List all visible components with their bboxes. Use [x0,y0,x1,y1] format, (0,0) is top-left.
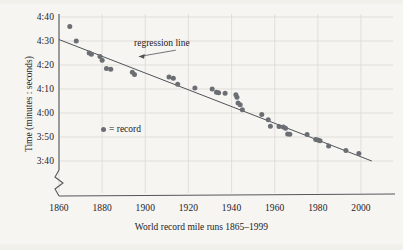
regression-line [59,40,372,161]
data-point [238,102,243,107]
x-tick-label: 1900 [136,203,155,213]
data-point [210,87,215,92]
data-point [108,67,113,72]
data-point [132,72,137,77]
data-point [287,132,292,137]
annotation-leader-line [139,50,176,59]
data-point [259,112,264,117]
data-point [216,90,221,95]
data-point [277,124,282,129]
legend-label: = record [109,124,141,134]
data-point [167,75,172,80]
data-point [89,52,94,57]
data-point [67,24,72,29]
x-tick-label: 1860 [49,203,68,213]
data-points-group [67,24,361,156]
record-dot-icon [101,127,106,132]
data-point [240,107,245,112]
data-point [305,132,310,137]
x-tick-label: 1980 [308,203,327,213]
x-tick-label: 1920 [179,203,198,213]
data-point [104,66,109,71]
regression-line-annotation-label: regression line [134,38,190,48]
data-point [326,143,331,148]
data-point [318,138,323,143]
data-point [192,86,197,91]
leader-arrowhead [139,54,145,59]
data-point [175,82,180,87]
data-point [234,95,239,100]
x-axis-title: World record mile runs 1865–1999 [0,222,403,232]
data-point [283,126,288,131]
regression-line-path [59,40,372,161]
x-tick-label: 1940 [222,203,241,213]
x-tick-label: 1880 [92,203,111,213]
chart-figure: 4:404:304:204:104:003:503:40 18601880190… [0,0,403,250]
data-point [356,151,361,156]
x-tick-label: 1960 [265,203,284,213]
data-point [100,58,105,63]
data-point [171,76,176,81]
data-point [343,148,348,153]
data-point [223,91,228,96]
gridlines-group [59,14,393,193]
x-tick-label: 2000 [351,203,370,213]
legend: = record [101,124,141,134]
data-point [74,39,79,44]
x-axis-line [59,194,395,196]
data-point [268,124,273,129]
data-point [266,117,271,122]
y-axis-title: Time (minutes : seconds) [24,19,34,189]
